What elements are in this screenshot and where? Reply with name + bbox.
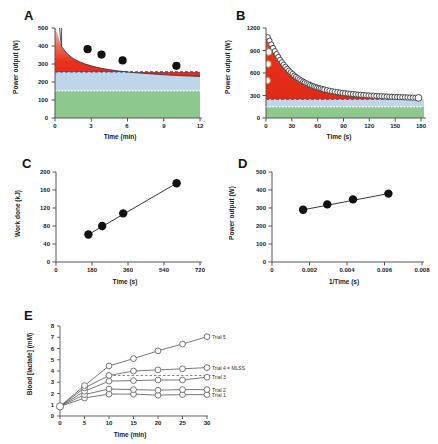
panel-b-y-tick: 1200 (230, 25, 260, 31)
panel-a-data-point (97, 51, 105, 59)
panel-a-y-tick: 200 (20, 79, 48, 85)
panel-b-x-tick: 180 (411, 123, 431, 129)
panel-d-y-tick: 100 (238, 241, 266, 247)
panel-e-x-tick: 20 (148, 420, 168, 426)
panel-e-markers-trial-1 (82, 391, 210, 401)
panel-d-x-tick: 0.002 (295, 267, 325, 273)
panel-d-y-tick: 400 (238, 187, 266, 193)
panel-a-data-point (84, 45, 92, 53)
panel-e-legend-trial-4: Trial 4 = MLSS (212, 365, 245, 371)
panel-e-legend-trial-1: Trial 1 (212, 392, 226, 398)
panel-a-x-ticks (55, 118, 200, 122)
panel-a: A Power output (W) Time (min) (0, 0, 214, 146)
panel-e-y-tick: 3 (34, 379, 54, 385)
panel-d-data-point (323, 200, 331, 208)
panel-e-x-tick: 30 (197, 420, 217, 426)
panel-a-y-tick: 500 (20, 25, 48, 31)
panel-a-x-tick: 12 (190, 123, 210, 129)
panel-e-x-tick: 0 (50, 420, 70, 426)
panel-e-legend-trial-3: Trial 3 (212, 374, 226, 380)
panel-c-x-tick: 180 (82, 267, 102, 273)
panel-d-plot (214, 146, 438, 292)
panel-c-y-tick: 80 (22, 223, 50, 229)
panel-e-x-tick: 15 (124, 420, 144, 426)
panel-a-x-tick: 0 (45, 123, 65, 129)
panel-e-y-tick: 0 (34, 413, 54, 419)
panel-a-y-tick: 300 (20, 61, 48, 67)
panel-c: C Work done (kJ) Time (s) 200 (0, 146, 214, 292)
panel-b-x-tick: 0 (256, 123, 276, 129)
panel-d-x-tick: 0.006 (370, 267, 400, 273)
panel-e-baseline-marker (56, 403, 63, 410)
panel-b-y-tick: 0 (230, 115, 260, 121)
panel-b-heavy-band (266, 99, 424, 107)
panel-d-x-tick: 0 (262, 267, 282, 273)
panel-e-x-tick: 25 (173, 420, 193, 426)
panel-d-data-point (299, 206, 307, 214)
panel-e-y-tick: 5 (34, 357, 54, 363)
panel-d-data-point (349, 195, 357, 203)
panel-d-y-ticks (269, 172, 273, 262)
panel-d-regression-line (303, 194, 388, 210)
panel-c-x-ticks (56, 262, 200, 266)
panel-a-y-tick: 400 (20, 43, 48, 49)
panel-b-y-ticks (263, 28, 267, 118)
panel-a-x-tick: 9 (154, 123, 174, 129)
panel-c-data-point (98, 222, 106, 230)
panel-b-x-tick: 90 (334, 123, 354, 129)
panel-e-y-tick: 1 (34, 402, 54, 408)
panel-c-x-tick: 0 (46, 267, 66, 273)
panel-b-y-tick: 900 (230, 48, 260, 54)
panel-d: D Power output (W) 1/Time (s) 500 (214, 146, 438, 292)
panel-e-x-tick: 5 (75, 420, 95, 426)
panel-a-y-tick: 100 (20, 97, 48, 103)
panel-b-x-tick: 150 (385, 123, 405, 129)
panel-d-data-point (384, 189, 392, 197)
panel-b-x-ticks (266, 118, 421, 122)
panel-a-y-tick: 0 (20, 115, 48, 121)
panel-a-moderate-band (55, 91, 200, 118)
panel-e-x-tick: 10 (99, 420, 119, 426)
panel-b: B Power output (W) Time (s) (214, 0, 438, 146)
panel-a-x-tick: 3 (81, 123, 101, 129)
panel-a-data-point (119, 56, 127, 64)
panel-e-y-tick: 2 (34, 391, 54, 397)
panel-d-y-tick: 500 (238, 169, 266, 175)
panel-e-x-ticks (60, 416, 207, 419)
panel-c-x-tick: 720 (190, 267, 210, 273)
panel-d-y-tick: 200 (238, 223, 266, 229)
panel-c-x-tick: 540 (154, 267, 174, 273)
panel-c-y-tick: 120 (22, 205, 50, 211)
panel-e-y-tick: 4 (34, 368, 54, 374)
panel-b-x-tick: 120 (359, 123, 379, 129)
panel-c-y-tick: 40 (22, 241, 50, 247)
panel-d-x-ticks (272, 262, 422, 266)
panel-c-y-tick: 200 (22, 169, 50, 175)
panel-b-moderate-band (266, 107, 424, 118)
panel-c-y-tick: 0 (22, 259, 50, 265)
panel-d-y-tick: 300 (238, 205, 266, 211)
panel-c-plot (0, 146, 214, 292)
panel-c-y-ticks (53, 172, 57, 262)
panel-a-y-ticks (52, 28, 56, 118)
panel-e-y-tick: 7 (34, 334, 54, 340)
panel-c-x-tick: 360 (118, 267, 138, 273)
panel-b-y-tick: 300 (230, 93, 260, 99)
panel-c-y-tick: 160 (22, 187, 50, 193)
panel-e-y-tick: 6 (34, 346, 54, 352)
panel-d-x-tick: 0.004 (332, 267, 362, 273)
panel-a-plot (0, 0, 214, 146)
panel-e: E Blood [lactate] (mM) Time (min) (0, 292, 438, 444)
panel-b-x-tick: 30 (282, 123, 302, 129)
panel-c-data-point (119, 209, 127, 217)
panel-e-legend-trial-5: Trial 5 (212, 334, 226, 340)
panel-b-y-tick: 600 (230, 70, 260, 76)
panel-d-x-tick: 0.008 (407, 267, 437, 273)
panel-a-data-point (172, 62, 180, 70)
panel-c-data-point (84, 230, 92, 238)
panel-e-y-tick: 8 (34, 323, 54, 329)
panel-b-x-tick: 60 (308, 123, 328, 129)
panel-d-y-tick: 0 (238, 259, 266, 265)
panel-a-x-tick: 6 (117, 123, 137, 129)
panel-c-data-point (172, 179, 180, 187)
